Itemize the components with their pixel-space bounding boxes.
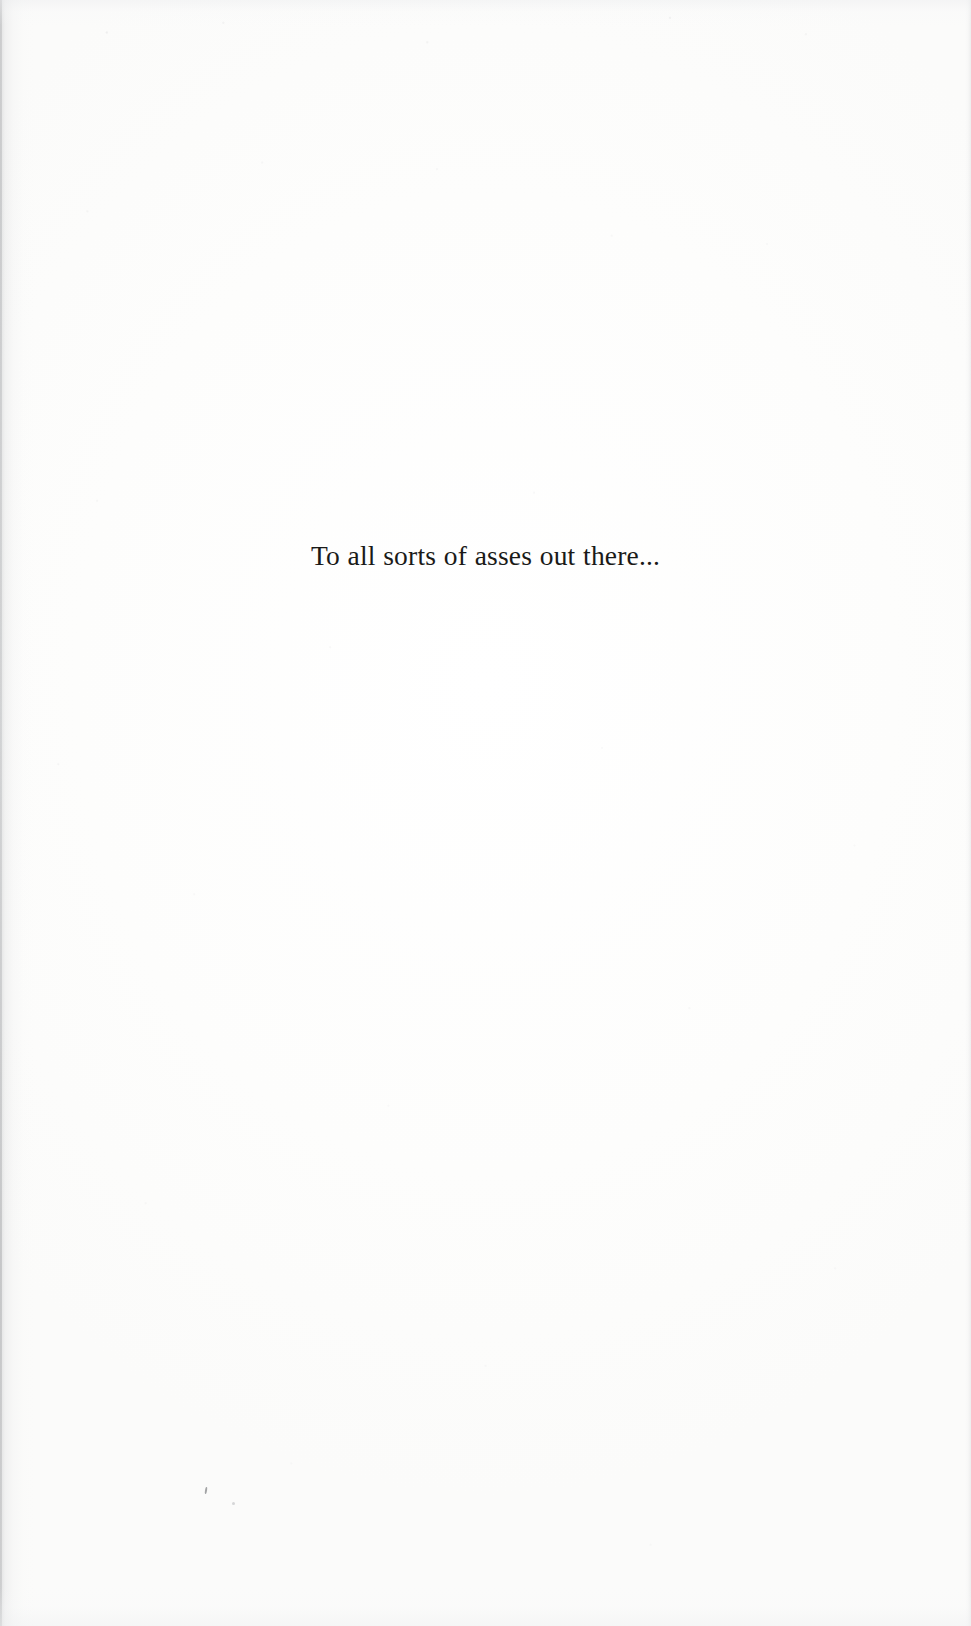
dedication-text: To all sorts of asses out there... xyxy=(0,540,971,572)
paper-tone-overlay xyxy=(0,0,971,1626)
scanned-page: To all sorts of asses out there... xyxy=(0,0,971,1626)
scan-gutter-shadow xyxy=(0,0,34,1626)
page-edge-right xyxy=(965,0,971,1626)
ink-fleck-mark xyxy=(204,1487,207,1494)
page-edge-left xyxy=(0,0,2,1626)
scan-speckle-noise xyxy=(0,0,971,1626)
page-edge-top xyxy=(0,0,971,26)
ink-speck-mark xyxy=(232,1502,235,1505)
page-edge-bottom xyxy=(0,1586,971,1626)
